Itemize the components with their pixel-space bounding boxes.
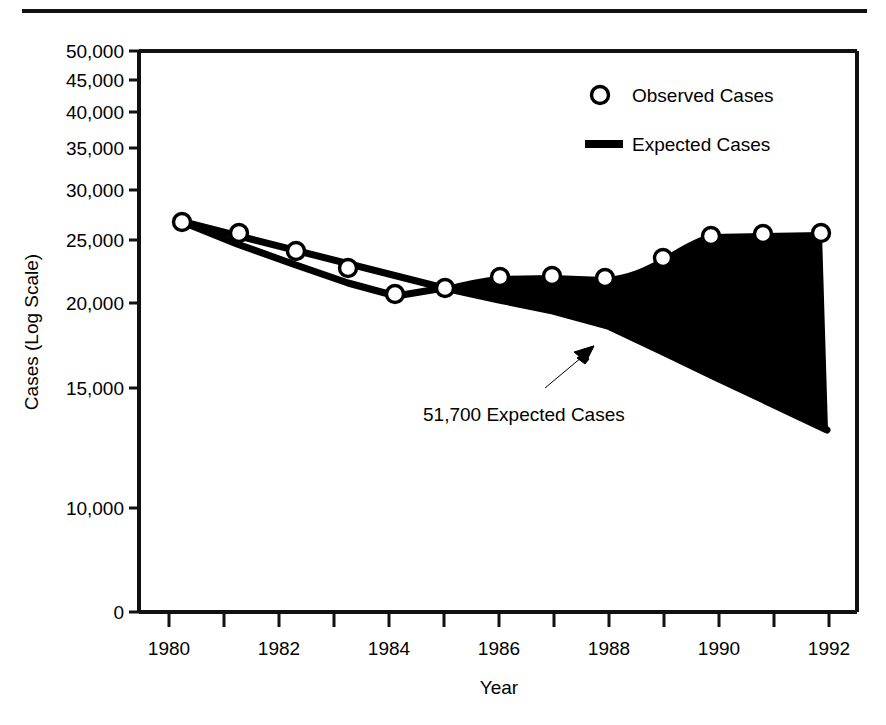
x-tick-label-1986: 1986 (478, 638, 520, 659)
data-point-1982 (288, 243, 305, 260)
data-point-1984 (387, 286, 404, 303)
data-point-1986 (492, 269, 509, 286)
y-tick-label-40000: 40,000 (66, 102, 124, 123)
y-axis-title: Cases (Log Scale) (21, 254, 42, 410)
legend-label-expected-cases: Expected Cases (632, 134, 770, 155)
x-axis-title: Year (480, 677, 519, 698)
data-point-1985 (437, 280, 454, 297)
expected-cases-trend-segment (180, 221, 444, 288)
chart-plot-area: 50,000 45,000 40,000 35,000 30,000 25,00… (0, 0, 886, 725)
y-tick-label-0: 0 (113, 602, 124, 623)
x-tick-label-1982: 1982 (258, 638, 300, 659)
data-point-1990 (703, 228, 720, 245)
x-tick-label-1980: 1980 (148, 638, 190, 659)
x-tick-label-1984: 1984 (368, 638, 411, 659)
data-point-1988 (597, 270, 614, 287)
x-axis-tick-labels: 1980 1982 1984 1986 1988 1990 1992 (148, 638, 850, 659)
data-point-1992 (813, 225, 830, 242)
y-tick-label-45000: 45,000 (66, 70, 124, 91)
chart-figure: 50,000 45,000 40,000 35,000 30,000 25,00… (0, 0, 886, 725)
x-tick-label-1990: 1990 (698, 638, 740, 659)
y-tick-label-20000: 20,000 (66, 293, 124, 314)
x-tick-label-1988: 1988 (588, 638, 630, 659)
y-tick-label-10000: 10,000 (66, 498, 124, 519)
legend-open-circle-icon (592, 87, 609, 104)
data-point-1987 (544, 268, 561, 285)
y-tick-label-30000: 30,000 (66, 180, 124, 201)
y-tick-label-15000: 15,000 (66, 378, 124, 399)
data-point-1991 (755, 226, 772, 243)
legend-item-expected-cases[interactable]: Expected Cases (585, 134, 770, 155)
chart-legend: Observed Cases Expected Cases (585, 85, 774, 155)
annotation-label-expected-cases: 51,700 Expected Cases (423, 404, 625, 425)
y-tick-label-25000: 25,000 (66, 230, 124, 251)
y-axis-tick-labels: 50,000 45,000 40,000 35,000 30,000 25,00… (66, 41, 124, 623)
legend-item-observed-cases[interactable]: Observed Cases (592, 85, 774, 106)
data-point-1989 (655, 250, 672, 267)
annotation-arrow-icon (545, 346, 594, 388)
x-tick-label-1992: 1992 (808, 638, 850, 659)
y-tick-label-35000: 35,000 (66, 138, 124, 159)
legend-label-observed-cases: Observed Cases (632, 85, 774, 106)
x-axis-ticks (169, 612, 829, 627)
data-point-1981 (231, 225, 248, 242)
y-tick-label-50000: 50,000 (66, 41, 124, 62)
data-point-1983 (340, 260, 357, 277)
data-point-1980 (174, 214, 191, 231)
